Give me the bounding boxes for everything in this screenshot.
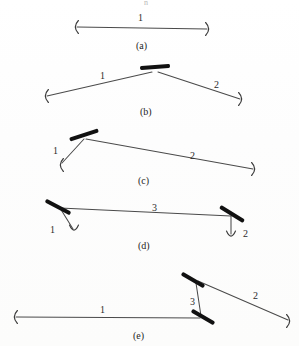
joint-b-1 [140, 64, 170, 70]
figure-root: 1(a)12(b)12(c)312(d)132(e) n [0, 0, 299, 346]
endcap-left-c [60, 159, 63, 172]
segment-label-d-2: 2 [243, 229, 248, 239]
joint-d-1 [45, 199, 72, 216]
panel-c [60, 128, 254, 175]
segment-a-1 [77, 27, 207, 29]
segment-label-e-2: 2 [253, 291, 258, 301]
segment-label-b-1: 1 [100, 71, 105, 81]
panel-caption-a: (a) [136, 41, 147, 51]
segment-e-2 [198, 281, 288, 320]
segment-label-e-1: 1 [100, 305, 105, 315]
panel-caption-b: (b) [140, 107, 152, 117]
panel-caption-d: (d) [138, 241, 150, 251]
segment-label-c-1: 1 [53, 146, 58, 156]
joint-d-2 [219, 205, 245, 223]
panel-d [45, 199, 245, 236]
segment-label-b-2: 2 [214, 80, 219, 90]
scan-artifact-top-char: n [144, 0, 148, 7]
segment-c-1 [62, 139, 84, 163]
segment-label-a-1: 1 [138, 13, 143, 23]
segment-d-3 [60, 208, 231, 216]
segment-label-e-3: 3 [190, 297, 195, 307]
segment-c-2 [86, 139, 253, 169]
segment-e-1 [16, 317, 200, 318]
joint-e-2 [191, 309, 216, 325]
endcap-right-e [287, 315, 290, 328]
segment-label-d-1: 1 [50, 225, 55, 235]
panel-caption-e: (e) [133, 331, 144, 341]
segment-b-2 [158, 72, 240, 99]
segment-e-3 [196, 283, 201, 316]
panel-caption-c: (c) [138, 176, 149, 186]
segment-label-c-2: 2 [190, 151, 195, 161]
panel-e [14, 272, 289, 328]
panel-b [45, 64, 241, 106]
segment-label-d-3: 3 [152, 203, 157, 213]
joint-e-1 [181, 272, 206, 288]
